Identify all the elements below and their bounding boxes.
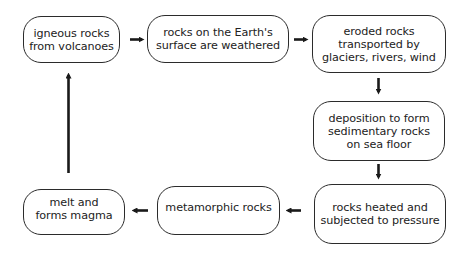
arrows-layer bbox=[0, 0, 466, 257]
